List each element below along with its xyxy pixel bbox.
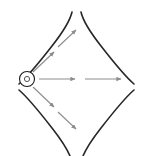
ray-diagram-svg bbox=[0, 0, 152, 156]
point-source-marker bbox=[20, 72, 35, 87]
diagram-canvas bbox=[0, 0, 152, 156]
source-inner-dot-icon bbox=[24, 76, 29, 81]
